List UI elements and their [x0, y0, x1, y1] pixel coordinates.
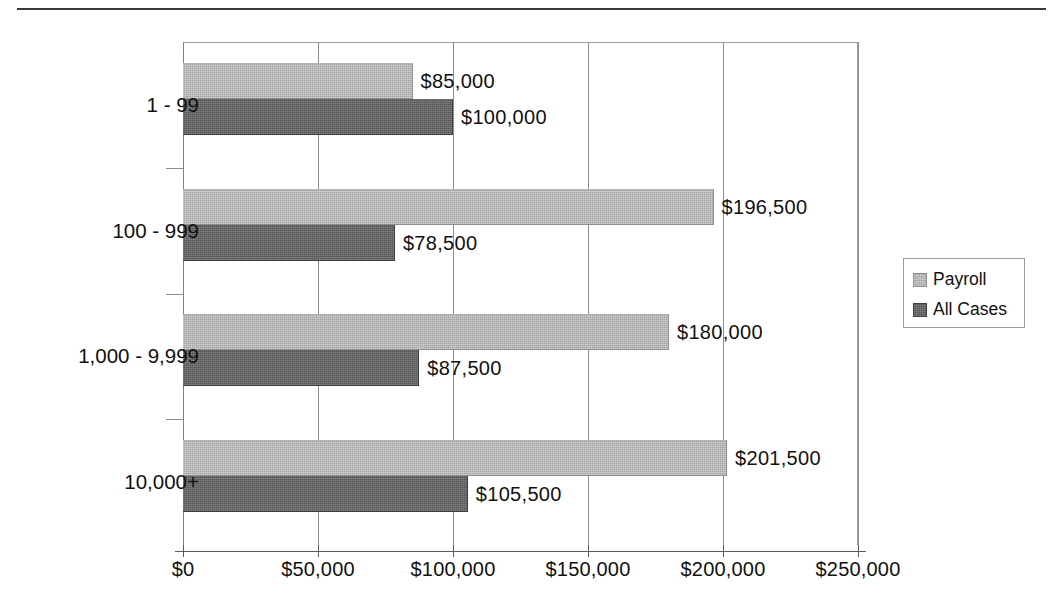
bar-all-cases[interactable] — [183, 350, 419, 386]
bar-value-label: $78,500 — [403, 231, 477, 254]
x-axis-tick — [318, 545, 319, 557]
x-axis-tick — [858, 545, 859, 557]
bar-payroll[interactable] — [183, 314, 669, 350]
y-axis-tick — [166, 168, 183, 169]
bar-value-label: $201,500 — [735, 447, 821, 470]
legend-label-all-cases: All Cases — [933, 299, 1007, 320]
legend-swatch-payroll-icon — [913, 273, 927, 287]
x-axis-tick — [588, 545, 589, 557]
x-axis-tick-label: $250,000 — [815, 558, 900, 581]
bar-value-label: $180,000 — [677, 321, 763, 344]
legend-item-all-cases[interactable]: All Cases — [913, 299, 1007, 320]
bar-all-cases[interactable] — [183, 225, 395, 261]
x-axis-tick — [723, 545, 724, 557]
bar-value-label: $105,500 — [476, 483, 562, 506]
gridline — [858, 42, 859, 545]
x-axis-tick — [183, 545, 184, 557]
legend-swatch-all-cases-icon — [913, 303, 927, 317]
y-axis-tick — [166, 419, 183, 420]
y-axis-tick — [166, 294, 183, 295]
x-axis-tick-label: $0 — [172, 558, 195, 581]
x-axis-line — [175, 551, 866, 552]
bar-value-label: $85,000 — [421, 69, 495, 92]
chart-legend: Payroll All Cases — [903, 258, 1025, 328]
legend-label-payroll: Payroll — [933, 269, 987, 290]
x-axis-tick — [453, 545, 454, 557]
x-axis-tick-label: $200,000 — [680, 558, 765, 581]
bar-payroll[interactable] — [183, 63, 413, 99]
bar-chart-figure: $85,000$100,000$196,500$78,500$180,000$8… — [0, 0, 1063, 600]
bar-payroll[interactable] — [183, 440, 727, 476]
bar-payroll[interactable] — [183, 189, 714, 225]
x-axis-tick-label: $100,000 — [410, 558, 495, 581]
x-axis-tick-label: $50,000 — [281, 558, 355, 581]
x-axis-tick-label: $150,000 — [545, 558, 630, 581]
legend-item-payroll[interactable]: Payroll — [913, 269, 987, 290]
plot-area: $85,000$100,000$196,500$78,500$180,000$8… — [183, 42, 858, 545]
bar-all-cases[interactable] — [183, 476, 468, 512]
bar-all-cases[interactable] — [183, 99, 453, 135]
y-axis-category-label: 1,000 - 9,999 — [78, 344, 199, 368]
y-axis-category-label: 1 - 99 — [147, 93, 199, 117]
y-axis-category-label: 10,000+ — [124, 470, 199, 494]
bar-value-label: $87,500 — [427, 357, 501, 380]
bar-value-label: $196,500 — [722, 195, 808, 218]
y-axis-category-label: 100 - 999 — [112, 219, 199, 243]
bar-value-label: $100,000 — [461, 105, 547, 128]
